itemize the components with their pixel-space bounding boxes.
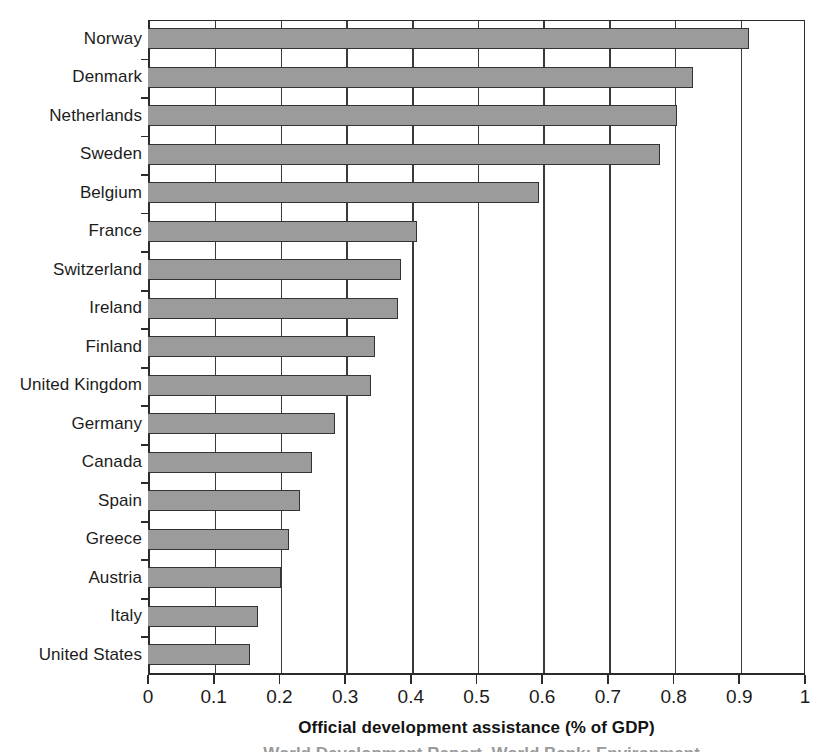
- x-axis-tick-label: 0.6: [512, 686, 572, 708]
- x-axis-tick: [147, 675, 149, 684]
- x-axis-tick: [607, 675, 609, 684]
- y-axis-label-switzerland: Switzerland: [0, 260, 142, 280]
- y-axis-label-netherlands: Netherlands: [0, 106, 142, 126]
- x-axis-tick: [213, 675, 215, 684]
- bar-row: [148, 290, 805, 329]
- y-axis-label-united-kingdom: United Kingdom: [0, 375, 142, 395]
- x-axis-tick-label: 0: [118, 686, 178, 708]
- bar-row: [148, 636, 805, 675]
- x-axis-tick-label: 0.9: [709, 686, 769, 708]
- bar-row: [148, 213, 805, 252]
- y-axis-label-germany: Germany: [0, 414, 142, 434]
- bar-row: [148, 482, 805, 521]
- bar-row: [148, 521, 805, 560]
- bar-chart: NorwayDenmarkNetherlandsSwedenBelgiumFra…: [0, 0, 823, 752]
- y-axis-tick: [141, 59, 149, 61]
- x-axis-tick-label: 0.8: [644, 686, 704, 708]
- bar-denmark: [148, 67, 693, 88]
- bar-finland: [148, 336, 375, 357]
- x-axis-tick-label: 0.1: [184, 686, 244, 708]
- bar-italy: [148, 606, 258, 627]
- bar-row: [148, 367, 805, 406]
- bar-row: [148, 444, 805, 483]
- y-axis-tick: [141, 598, 149, 600]
- bar-france: [148, 221, 417, 242]
- x-axis-tick: [738, 675, 740, 684]
- x-axis-tick-label: 0.2: [249, 686, 309, 708]
- bar-greece: [148, 529, 289, 550]
- y-axis-label-austria: Austria: [0, 568, 142, 588]
- y-axis-tick: [141, 367, 149, 369]
- y-axis-tick: [141, 559, 149, 561]
- y-axis-label-ireland: Ireland: [0, 298, 142, 318]
- bar-row: [148, 136, 805, 175]
- bar-austria: [148, 567, 281, 588]
- bar-united-kingdom: [148, 375, 371, 396]
- y-axis-label-greece: Greece: [0, 529, 142, 549]
- bar-row: [148, 20, 805, 59]
- y-axis-tick: [141, 136, 149, 138]
- bar-united-states: [148, 644, 250, 665]
- bar-ireland: [148, 298, 398, 319]
- bar-germany: [148, 413, 335, 434]
- y-axis-label-finland: Finland: [0, 337, 142, 357]
- bar-row: [148, 59, 805, 98]
- bar-spain: [148, 490, 300, 511]
- y-axis-tick: [141, 97, 149, 99]
- y-axis-label-italy: Italy: [0, 606, 142, 626]
- cut-off-caption: World Development Report, World Bank; En…: [140, 744, 823, 752]
- bar-row: [148, 559, 805, 598]
- bar-norway: [148, 28, 749, 49]
- bar-row: [148, 328, 805, 367]
- bar-row: [148, 405, 805, 444]
- bar-switzerland: [148, 259, 401, 280]
- y-axis-tick: [141, 521, 149, 523]
- y-axis-label-denmark: Denmark: [0, 67, 142, 87]
- y-axis-tick: [141, 636, 149, 638]
- y-axis-label-belgium: Belgium: [0, 183, 142, 203]
- y-axis-tick: [141, 213, 149, 215]
- bar-row: [148, 97, 805, 136]
- bar-sweden: [148, 144, 660, 165]
- y-axis-tick: [141, 405, 149, 407]
- y-axis-label-united-states: United States: [0, 645, 142, 665]
- bar-row: [148, 598, 805, 637]
- y-axis-label-canada: Canada: [0, 452, 142, 472]
- x-axis-title: Official development assistance (% of GD…: [148, 718, 805, 738]
- y-axis-tick: [141, 174, 149, 176]
- x-axis-tick: [673, 675, 675, 684]
- x-axis-tick-label: 0.3: [315, 686, 375, 708]
- y-axis-tick: [141, 444, 149, 446]
- x-axis-tick: [410, 675, 412, 684]
- x-axis-tick: [541, 675, 543, 684]
- x-axis-tick-label: 0.4: [381, 686, 441, 708]
- x-axis-tick-label: 1: [775, 686, 823, 708]
- bar-row: [148, 251, 805, 290]
- x-axis-tick: [344, 675, 346, 684]
- y-axis-label-norway: Norway: [0, 29, 142, 49]
- bar-row: [148, 174, 805, 213]
- y-axis-label-sweden: Sweden: [0, 144, 142, 164]
- bar-netherlands: [148, 105, 677, 126]
- x-axis-tick-label: 0.5: [447, 686, 507, 708]
- x-axis-tick: [476, 675, 478, 684]
- x-axis-tick: [279, 675, 281, 684]
- y-axis-label-spain: Spain: [0, 491, 142, 511]
- y-axis-tick: [141, 328, 149, 330]
- y-axis-labels: NorwayDenmarkNetherlandsSwedenBelgiumFra…: [0, 20, 142, 675]
- y-axis-tick: [141, 290, 149, 292]
- bars-layer: [148, 20, 805, 675]
- bar-canada: [148, 452, 312, 473]
- x-axis-tick: [804, 675, 806, 684]
- y-axis-label-france: France: [0, 221, 142, 241]
- x-axis-tick-label: 0.7: [578, 686, 638, 708]
- y-axis-tick: [141, 482, 149, 484]
- y-axis-tick: [141, 251, 149, 253]
- bar-belgium: [148, 182, 539, 203]
